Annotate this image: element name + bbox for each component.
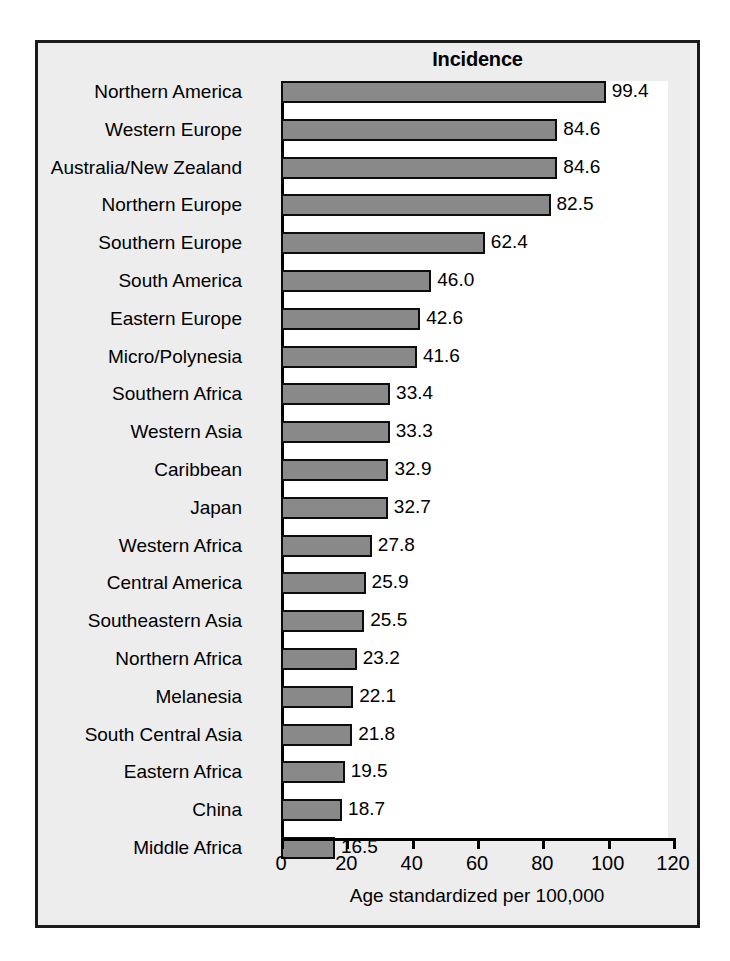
x-axis-tick-label: 20 xyxy=(316,852,376,875)
bar-row: Caribbean32.9 xyxy=(0,459,700,481)
bar-value-label: 32.9 xyxy=(394,456,431,482)
bar xyxy=(281,194,551,216)
bar-row: Eastern Europe42.6 xyxy=(0,308,700,330)
category-label: Southeastern Asia xyxy=(40,608,242,634)
bar xyxy=(281,346,417,368)
category-label: Northern America xyxy=(40,79,242,105)
bar-row: China18.7 xyxy=(0,799,700,821)
category-label: Middle Africa xyxy=(40,835,242,861)
bar-row: South America46.0 xyxy=(0,270,700,292)
x-axis-tick xyxy=(412,838,415,849)
category-label: China xyxy=(40,797,242,823)
bar-row: Japan32.7 xyxy=(0,497,700,519)
x-axis-tick xyxy=(542,838,545,849)
bar xyxy=(281,761,345,783)
bar xyxy=(281,686,353,708)
x-axis-tick-label: 0 xyxy=(251,852,311,875)
bar-value-label: 27.8 xyxy=(378,532,415,558)
bar xyxy=(281,81,606,103)
category-label: Melanesia xyxy=(40,684,242,710)
bar xyxy=(281,572,366,594)
bar-row: Northern Europe82.5 xyxy=(0,194,700,216)
category-label: Southern Africa xyxy=(40,381,242,407)
category-label: Western Africa xyxy=(40,533,242,559)
bar-value-label: 19.5 xyxy=(351,758,388,784)
bar-value-label: 82.5 xyxy=(557,191,594,217)
bar-row: Melanesia22.1 xyxy=(0,686,700,708)
x-axis-tick-label: 100 xyxy=(578,852,638,875)
category-label: Caribbean xyxy=(40,457,242,483)
category-label: Western Asia xyxy=(40,419,242,445)
bar-value-label: 25.9 xyxy=(372,569,409,595)
bar-row: Northern America99.4 xyxy=(0,81,700,103)
bar-row: Central America25.9 xyxy=(0,572,700,594)
bar-row: Western Europe84.6 xyxy=(0,119,700,141)
bar-row: Southeastern Asia25.5 xyxy=(0,610,700,632)
category-label: Western Europe xyxy=(40,117,242,143)
bar-value-label: 33.3 xyxy=(396,418,433,444)
bar-value-label: 99.4 xyxy=(612,78,649,104)
bar xyxy=(281,421,390,443)
bar-value-label: 18.7 xyxy=(348,796,385,822)
x-axis-tick-label: 80 xyxy=(512,852,572,875)
x-axis-tick xyxy=(281,838,284,849)
bar xyxy=(281,459,388,481)
x-axis-tick-label: 60 xyxy=(447,852,507,875)
bar-value-label: 23.2 xyxy=(363,645,400,671)
category-label: Micro/Polynesia xyxy=(40,344,242,370)
bar xyxy=(281,232,485,254)
bar-value-label: 41.6 xyxy=(423,343,460,369)
bar-row: Australia/New Zealand84.6 xyxy=(0,157,700,179)
bar-row: Southern Europe62.4 xyxy=(0,232,700,254)
bar xyxy=(281,308,420,330)
bar-row: Micro/Polynesia41.6 xyxy=(0,346,700,368)
bar xyxy=(281,648,357,670)
x-axis-tick xyxy=(346,838,349,849)
bar-value-label: 33.4 xyxy=(396,380,433,406)
bar-value-label: 32.7 xyxy=(394,494,431,520)
bar-value-label: 84.6 xyxy=(563,154,600,180)
bar-value-label: 62.4 xyxy=(491,229,528,255)
x-axis-title: Age standardized per 100,000 xyxy=(281,885,673,907)
bar-row: South Central Asia21.8 xyxy=(0,724,700,746)
bar xyxy=(281,270,431,292)
chart-title: Incidence xyxy=(284,48,671,71)
bar xyxy=(281,535,372,557)
x-axis-tick-label: 40 xyxy=(382,852,442,875)
category-label: Northern Africa xyxy=(40,646,242,672)
bar-value-label: 84.6 xyxy=(563,116,600,142)
bar xyxy=(281,799,342,821)
category-label: South America xyxy=(40,268,242,294)
bar-value-label: 46.0 xyxy=(437,267,474,293)
bar-row: Northern Africa23.2 xyxy=(0,648,700,670)
bar-value-label: 22.1 xyxy=(359,683,396,709)
bar xyxy=(281,119,557,141)
category-label: Northern Europe xyxy=(40,192,242,218)
x-axis-tick-label: 120 xyxy=(643,852,703,875)
x-axis-tick xyxy=(673,838,676,849)
x-axis-tick xyxy=(608,838,611,849)
bar xyxy=(281,157,557,179)
bar-row: Western Africa27.8 xyxy=(0,535,700,557)
category-label: Japan xyxy=(40,495,242,521)
bar-row: Western Asia33.3 xyxy=(0,421,700,443)
bar-row: Southern Africa33.4 xyxy=(0,383,700,405)
category-label: Australia/New Zealand xyxy=(40,155,242,181)
bar xyxy=(281,724,352,746)
bar xyxy=(281,383,390,405)
x-axis-tick xyxy=(477,838,480,849)
bar xyxy=(281,497,388,519)
category-label: Central America xyxy=(40,570,242,596)
category-label: South Central Asia xyxy=(40,722,242,748)
category-label: Southern Europe xyxy=(40,230,242,256)
bar-value-label: 21.8 xyxy=(358,721,395,747)
bar xyxy=(281,610,364,632)
category-label: Eastern Africa xyxy=(40,759,242,785)
bar-value-label: 42.6 xyxy=(426,305,463,331)
category-label: Eastern Europe xyxy=(40,306,242,332)
bar-row: Eastern Africa19.5 xyxy=(0,761,700,783)
bar-value-label: 25.5 xyxy=(370,607,407,633)
bar-rows-container: Northern America99.4Western Europe84.6Au… xyxy=(0,78,700,838)
